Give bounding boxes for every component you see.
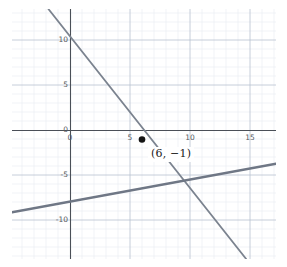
- intersection-point-marker: [139, 136, 146, 143]
- x-tick-label-0: 0: [68, 134, 73, 142]
- y-tick-label-10: 10: [58, 36, 68, 44]
- graph-figure: 0 5 10 15 10 5 0 -5 -10 (6, −1): [0, 0, 287, 267]
- plot-background: [12, 9, 276, 259]
- x-tick-label-15: 15: [245, 134, 255, 142]
- y-tick-label-neg10: -10: [56, 216, 68, 224]
- y-tick-label-0: 0: [63, 126, 68, 134]
- intersection-point-label: (6, −1): [148, 147, 194, 162]
- y-tick-label-5: 5: [63, 81, 68, 89]
- coordinate-plane: [0, 0, 287, 267]
- x-tick-label-5: 5: [128, 134, 133, 142]
- y-tick-label-neg5: -5: [61, 171, 68, 179]
- x-tick-label-10: 10: [185, 134, 195, 142]
